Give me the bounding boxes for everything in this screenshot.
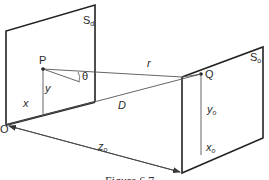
object-plane-label: So: [250, 51, 261, 64]
d-line: [6, 74, 201, 125]
point-p-construction: [41, 67, 182, 114]
x0-label: xo: [205, 141, 216, 154]
display-plane: [6, 5, 95, 125]
object-plane: [182, 47, 263, 173]
theta-arc: [78, 72, 80, 81]
z0-arrow-back: [9, 126, 180, 172]
y0-label: yo: [206, 103, 217, 116]
y-label: y: [44, 82, 52, 94]
r-line: [43, 69, 182, 77]
point-o-label: O: [0, 123, 9, 135]
r-label: r: [147, 57, 152, 69]
figure-caption: Figure 6.7: [105, 174, 154, 180]
point-p-dot: [41, 67, 45, 71]
display-plane-label: Sd: [83, 14, 94, 27]
theta-label: θ: [82, 70, 88, 82]
point-p-label: P: [39, 54, 46, 66]
x-label: x: [22, 97, 29, 109]
point-q-label: Q: [205, 68, 214, 80]
point-q-construction: [182, 72, 203, 155]
figure-diagram: Sd So P Q O θ r D x y zo yo xo Figure 6.…: [0, 0, 269, 180]
z0-label: zo: [97, 140, 108, 153]
d-label: D: [118, 99, 126, 111]
